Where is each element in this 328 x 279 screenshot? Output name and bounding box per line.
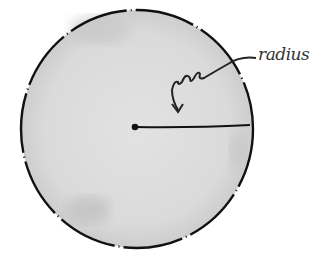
circle-diagram	[0, 0, 328, 279]
radius-label: radius	[258, 44, 309, 64]
center-point	[132, 124, 139, 131]
